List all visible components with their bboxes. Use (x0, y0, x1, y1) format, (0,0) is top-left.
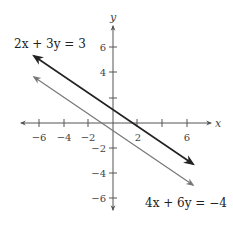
y-tick-label: −6 (91, 193, 106, 204)
x-axis-label: x (215, 117, 222, 130)
y-axis-label: y (109, 11, 117, 24)
y-tick-label: −2 (91, 143, 106, 154)
x-tick-label: −2 (81, 132, 96, 143)
line-chart: −6 −4 −2 2 6 6 4 −2 −4 −6 x y 2x + 3y = … (0, 0, 233, 228)
y-tick-label: 4 (100, 67, 106, 78)
x-tick-label: −4 (57, 132, 72, 143)
axes (21, 26, 211, 210)
y-tick-label: 6 (100, 42, 106, 53)
x-tick-label: 6 (184, 132, 190, 143)
x-tick-label: 2 (135, 132, 141, 143)
equation-label-2: 4x + 6y = −4 (145, 196, 227, 210)
y-tick-label: −4 (91, 168, 106, 179)
equation-label-1: 2x + 3y = 3 (14, 37, 86, 51)
x-tick-labels: −6 −4 −2 2 6 (32, 132, 191, 143)
x-tick-label: −6 (32, 132, 47, 143)
